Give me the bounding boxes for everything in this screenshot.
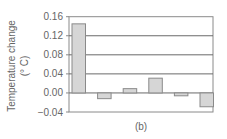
y-axis-title: Temperature change bbox=[6, 20, 17, 112]
bar bbox=[200, 93, 214, 107]
y-tick-label: −0.04 bbox=[38, 107, 64, 118]
bars bbox=[72, 24, 214, 107]
chart-caption: (b) bbox=[135, 121, 147, 132]
y-tick-label: 0.12 bbox=[44, 30, 64, 41]
bar bbox=[123, 89, 137, 93]
y-tick-label: 0.04 bbox=[44, 68, 64, 79]
bar bbox=[98, 93, 112, 99]
y-tick-label: 0.08 bbox=[44, 49, 64, 60]
bar-chart: 0.160.120.080.040.00−0.04 Temperature ch… bbox=[0, 0, 227, 139]
bar bbox=[149, 78, 163, 93]
bar bbox=[72, 24, 86, 93]
bar bbox=[174, 93, 188, 96]
gridlines bbox=[69, 17, 213, 112]
y-axis-unit: (° C) bbox=[19, 56, 30, 77]
y-axis-ticks: 0.160.120.080.040.00−0.04 bbox=[38, 11, 69, 117]
y-tick-label: 0.00 bbox=[44, 87, 64, 98]
y-tick-label: 0.16 bbox=[44, 11, 64, 22]
